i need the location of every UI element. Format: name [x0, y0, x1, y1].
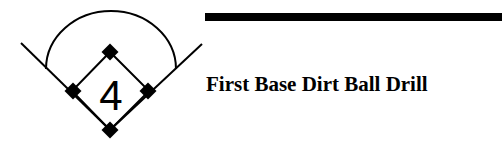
baseball-diamond-icon: 4 — [0, 0, 220, 146]
drill-number: 4 — [99, 72, 122, 119]
outfield-arc — [46, 11, 176, 69]
drill-title: First Base Dirt Ball Drill — [206, 72, 428, 97]
header-bar — [205, 13, 502, 21]
